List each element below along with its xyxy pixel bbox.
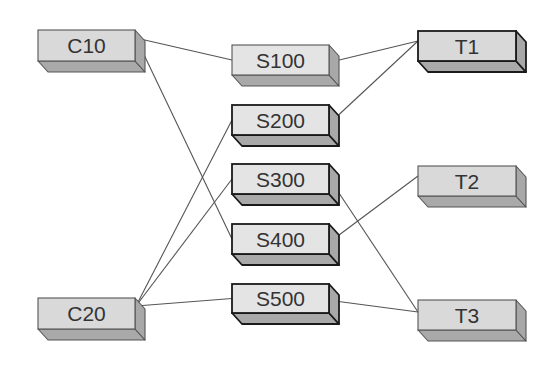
node-label: S300 (256, 168, 305, 191)
edge-s400-t2 (331, 176, 418, 241)
node-label: T3 (455, 304, 480, 327)
box-bottom-face (232, 135, 339, 146)
node-label: S500 (256, 287, 305, 310)
edge-c10-s100 (136, 38, 232, 60)
box-bottom-face (232, 75, 339, 86)
edge-s200-t1 (331, 41, 418, 122)
node-label: S400 (256, 228, 305, 251)
node-label: S100 (256, 49, 305, 72)
node-c10[interactable]: C10 (38, 30, 145, 72)
node-label: C10 (67, 34, 106, 57)
node-s500[interactable]: S500 (232, 284, 339, 324)
edge-c20-s500 (136, 299, 232, 307)
node-c20[interactable]: C20 (38, 298, 145, 340)
node-s400[interactable]: S400 (232, 224, 339, 265)
mapping-diagram: C10C20S100S200S300S400S500T1T2T3 (0, 0, 558, 365)
box-bottom-face (418, 330, 526, 341)
edge-s500-t3 (331, 301, 418, 313)
node-label: C20 (67, 302, 106, 325)
node-s100[interactable]: S100 (232, 45, 339, 86)
edge-c20-s300 (136, 179, 232, 306)
node-label: T1 (455, 35, 480, 58)
nodes: C10C20S100S200S300S400S500T1T2T3 (38, 30, 526, 341)
node-t3[interactable]: T3 (418, 300, 526, 341)
edge-c20-s200 (136, 120, 232, 306)
node-s200[interactable]: S200 (232, 105, 339, 146)
node-label: T2 (455, 170, 480, 193)
node-label: S200 (256, 109, 305, 132)
box-bottom-face (418, 61, 526, 72)
node-t2[interactable]: T2 (418, 166, 526, 207)
box-bottom-face (38, 61, 145, 72)
box-bottom-face (232, 194, 339, 205)
edge-s100-t1 (331, 41, 418, 62)
box-bottom-face (232, 254, 339, 265)
node-s300[interactable]: S300 (232, 164, 339, 205)
box-bottom-face (418, 196, 526, 207)
node-t1[interactable]: T1 (418, 31, 526, 72)
box-bottom-face (232, 313, 339, 324)
box-bottom-face (38, 329, 145, 340)
edge-c10-s400 (136, 38, 232, 239)
edge-s300-t3 (331, 181, 418, 312)
